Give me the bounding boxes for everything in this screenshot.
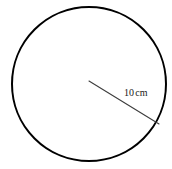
radius-value: 10 [124, 87, 134, 98]
circle-diagram-svg [0, 0, 172, 169]
geometry-figure-canvas: 10cm [0, 0, 172, 169]
radius-length-label: 10cm [124, 87, 148, 98]
diagram-background [0, 0, 172, 169]
radius-unit: cm [135, 87, 147, 98]
